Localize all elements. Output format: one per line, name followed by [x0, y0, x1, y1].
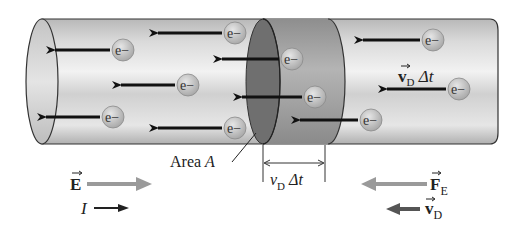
electron: e−: [304, 86, 326, 108]
svg-text:e−: e−: [180, 78, 194, 93]
current-symbol: I: [80, 199, 88, 218]
svg-text:e−: e−: [307, 90, 321, 105]
electron: e−: [112, 39, 134, 61]
vd-subscript: D: [407, 76, 415, 88]
svg-text:e−: e−: [451, 82, 465, 97]
electron: e−: [281, 48, 303, 70]
svg-text:e−: e−: [115, 43, 129, 58]
wire-left-end-cap: [26, 19, 58, 144]
svg-text:e−: e−: [425, 33, 439, 48]
vd-dt-inwire-label: vD Δt: [398, 64, 435, 88]
svg-text:e−: e−: [105, 110, 119, 125]
delta-t-text: Δt: [414, 67, 434, 86]
wire-drift-diagram: e−e−e−e−e−e−e−e−e−e− vD Δt Area A vD Δt …: [0, 0, 510, 228]
svg-text:e−: e−: [227, 26, 241, 41]
force-legend: FE: [361, 171, 448, 198]
electron: e−: [360, 109, 382, 131]
electron: e−: [224, 117, 246, 139]
drift-velocity-legend: vD: [386, 197, 443, 222]
drift-slab: [246, 19, 345, 144]
electric-field-legend: E: [70, 171, 152, 194]
drift-velocity-symbol: vD: [425, 199, 443, 222]
dimension-label: vD Δt: [270, 171, 303, 192]
electron: e−: [177, 74, 199, 96]
electron: e−: [422, 29, 444, 51]
electron: e−: [224, 22, 246, 44]
svg-text:e−: e−: [284, 52, 298, 67]
electron: e−: [448, 78, 470, 100]
current-legend: I: [80, 199, 129, 218]
svg-text:vD Δt: vD Δt: [398, 67, 435, 88]
e-field-symbol: E: [70, 175, 81, 194]
area-a-label: Area A: [170, 153, 215, 170]
svg-text:e−: e−: [227, 121, 241, 136]
svg-text:e−: e−: [363, 113, 377, 128]
force-symbol: FE: [430, 175, 448, 198]
electron: e−: [102, 106, 124, 128]
